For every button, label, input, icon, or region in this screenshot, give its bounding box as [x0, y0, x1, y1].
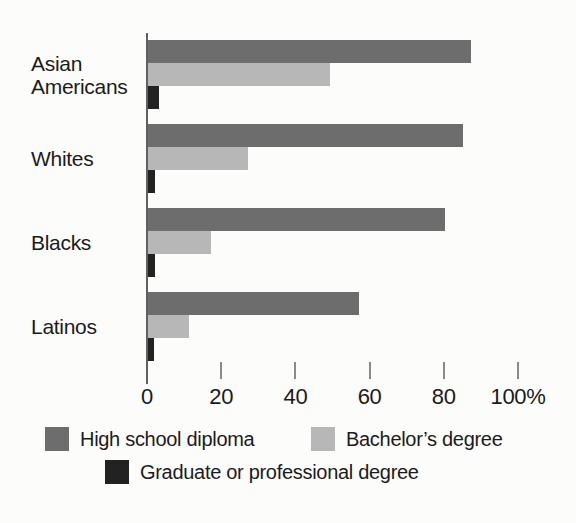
x-axis-tick-label: 80: [404, 384, 484, 410]
x-axis-tick-label: 100%: [478, 384, 558, 410]
category-label: Whites: [31, 124, 143, 193]
category-label: Blacks: [31, 208, 143, 277]
bar-bachelor-s-degree: [148, 315, 189, 338]
bar-stack: [148, 40, 471, 109]
legend-item-graduate-or-professional-degree: Graduate or professional degree: [105, 460, 419, 484]
legend-swatch: [45, 427, 69, 451]
legend-label: Bachelor’s degree: [346, 428, 503, 451]
x-axis-tick: [369, 362, 371, 379]
bar-stack: [148, 292, 359, 361]
category-label: Asian Americans: [31, 40, 143, 109]
x-axis-tick: [443, 362, 445, 379]
bar-graduate-or-professional-degree: [148, 170, 155, 193]
plot-area: Asian AmericansWhitesBlacksLatinos020406…: [0, 0, 576, 523]
legend-item-bachelor-s-degree: Bachelor’s degree: [311, 427, 503, 451]
x-axis-tick: [220, 362, 222, 379]
legend-swatch: [311, 427, 335, 451]
bar-bachelor-s-degree: [148, 147, 248, 170]
bar-high-school-diploma: [148, 40, 471, 63]
x-axis-tick-label: 20: [181, 384, 261, 410]
bar-bachelor-s-degree: [148, 231, 211, 254]
bar-graduate-or-professional-degree: [148, 338, 154, 361]
x-axis-tick: [517, 362, 519, 379]
bar-high-school-diploma: [148, 124, 463, 147]
category-group-latinos: Latinos: [0, 292, 576, 361]
bar-stack: [148, 208, 445, 277]
legend-label: Graduate or professional degree: [140, 461, 419, 484]
scanned-bar-chart-figure: Asian AmericansWhitesBlacksLatinos020406…: [0, 0, 576, 523]
bar-high-school-diploma: [148, 292, 359, 315]
bar-stack: [148, 124, 463, 193]
legend-label: High school diploma: [80, 428, 254, 451]
category-group-asian-americans: Asian Americans: [0, 40, 576, 109]
category-label: Latinos: [31, 292, 143, 361]
bar-high-school-diploma: [148, 208, 445, 231]
x-axis-tick: [146, 362, 148, 379]
category-group-blacks: Blacks: [0, 208, 576, 277]
x-axis-tick: [294, 362, 296, 379]
legend-item-high-school-diploma: High school diploma: [45, 427, 254, 451]
bar-bachelor-s-degree: [148, 63, 330, 86]
x-axis-tick-label: 60: [330, 384, 410, 410]
legend-swatch: [105, 460, 129, 484]
x-axis-tick-label: 40: [255, 384, 335, 410]
x-axis-tick-label: 0: [107, 384, 187, 410]
bar-graduate-or-professional-degree: [148, 254, 155, 277]
bar-graduate-or-professional-degree: [148, 86, 159, 109]
category-group-whites: Whites: [0, 124, 576, 193]
